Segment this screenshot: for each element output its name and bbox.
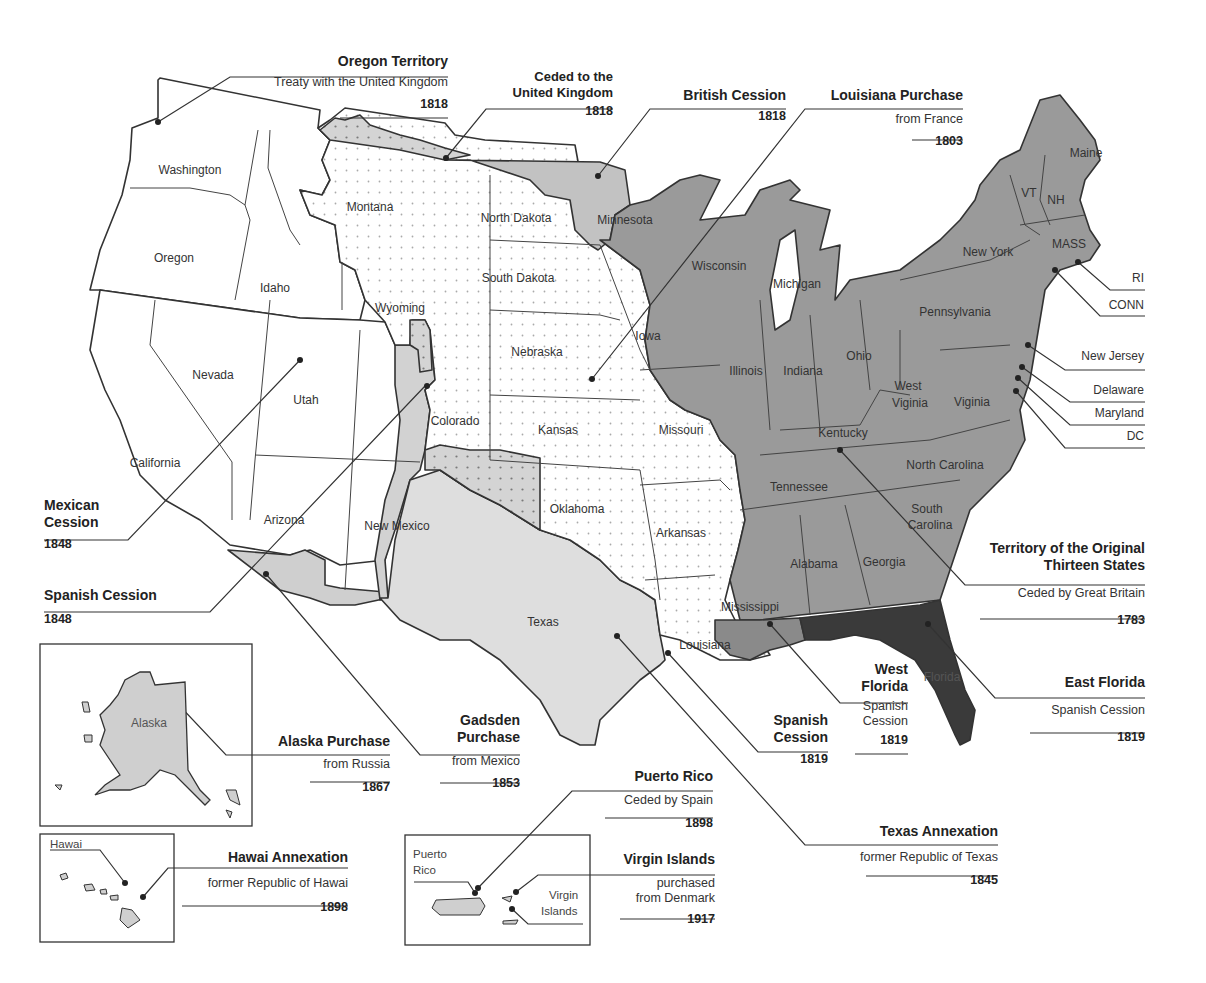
callout-subtitle: from France <box>831 112 963 127</box>
state-label-ohio: Ohio <box>846 349 871 363</box>
state-label-louisiana: Louisiana <box>679 638 730 652</box>
callout-spanish-cession-1848: Spanish Cession 1848 <box>44 587 157 627</box>
callout-title: Spanish Cession <box>44 587 157 604</box>
us-territorial-map <box>0 0 1206 983</box>
callout-year: 1867 <box>278 780 390 795</box>
ne-label-maryland: Maryland <box>1095 406 1144 420</box>
callout-year: 1898 <box>624 816 713 831</box>
state-label-idaho: Idaho <box>260 281 290 295</box>
callout-subtitle: Ceded by Great Britain <box>990 586 1145 601</box>
state-label-indiana: Indiana <box>783 364 822 378</box>
callout-subtitle: from Mexico <box>452 754 520 769</box>
callout-year: 1819 <box>774 752 828 767</box>
callout-british-cession: British Cession 1818 <box>683 87 786 124</box>
state-label-nevada: Nevada <box>192 368 233 382</box>
inset-label-puerto-rico-2: Rico <box>413 864 436 878</box>
inset-label-puerto-rico-1: Puerto <box>413 848 447 862</box>
callout-subtitle: Ceded by Spain <box>624 793 713 808</box>
state-label-florida: Florida <box>924 670 961 684</box>
inset-label-virgin-islands-1: Virgin <box>549 889 578 903</box>
callout-subtitle: Treaty with the United Kingdom <box>274 75 448 90</box>
state-label-new-mexico: New Mexico <box>364 519 429 533</box>
ne-label-conn: CONN <box>1109 298 1144 312</box>
callout-title-1: Ceded to the <box>513 69 613 85</box>
callout-year: 1783 <box>990 613 1145 628</box>
callout-title-1: West <box>861 661 908 678</box>
callout-year: 1819 <box>1051 730 1145 745</box>
callout-title-2: Cession <box>44 514 99 531</box>
state-label-illinois: Illinois <box>729 364 762 378</box>
state-label-pennsylvania: Pennsylvania <box>919 305 990 319</box>
callout-subtitle: former Republic of Texas <box>860 850 998 865</box>
callout-year: 1818 <box>513 104 613 119</box>
callout-title-1: Gadsden <box>452 712 520 729</box>
state-label-west-virginia-2: Viginia <box>892 396 928 410</box>
state-label-minnesota: Minnesota <box>597 213 652 227</box>
callout-original-thirteen: Territory of the Original Thirteen State… <box>990 540 1145 628</box>
callout-title-2: Purchase <box>452 729 520 746</box>
callout-louisiana-purchase: Louisiana Purchase from France 1803 <box>831 87 963 149</box>
callout-ceded-uk: Ceded to the United Kingdom 1818 <box>513 69 613 119</box>
callout-year: 1853 <box>452 776 520 791</box>
state-label-montana: Montana <box>347 200 394 214</box>
callout-hawaii-annexation: Hawai Annexation former Republic of Hawa… <box>208 849 348 915</box>
state-label-vermont: VT <box>1021 186 1036 200</box>
state-label-texas: Texas <box>527 615 558 629</box>
ne-label-ri: RI <box>1132 271 1144 285</box>
callout-title-2: Thirteen States <box>990 557 1145 574</box>
callout-subtitle-2: Cession <box>861 714 908 729</box>
state-label-maine: Maine <box>1070 146 1103 160</box>
callout-title: Louisiana Purchase <box>831 87 963 104</box>
callout-subtitle-2: from Denmark <box>623 891 715 906</box>
state-label-south-carolina-1: South <box>911 502 942 516</box>
state-label-colorado: Colorado <box>431 414 480 428</box>
ne-label-new-jersey: New Jersey <box>1081 349 1144 363</box>
state-label-nebraska: Nebraska <box>511 345 562 359</box>
state-label-washington: Washington <box>159 163 222 177</box>
callout-year: 1848 <box>44 612 157 627</box>
inset-label-hawaii: Hawai <box>50 838 82 852</box>
callout-subtitle: Spanish Cession <box>1051 703 1145 718</box>
state-label-missouri: Missouri <box>659 423 704 437</box>
callout-title: Virgin Islands <box>623 851 715 868</box>
callout-title: British Cession <box>683 87 786 104</box>
state-label-tennessee: Tennessee <box>770 480 828 494</box>
state-label-north-carolina: North Carolina <box>906 458 983 472</box>
state-label-mississippi: Mississippi <box>721 600 779 614</box>
callout-subtitle: from Russia <box>278 757 390 772</box>
callout-subtitle-1: purchased <box>623 876 715 891</box>
callout-year: 1898 <box>208 900 348 915</box>
ne-label-delaware: Delaware <box>1093 383 1144 397</box>
state-label-new-york: New York <box>963 245 1014 259</box>
ne-label-dc: DC <box>1127 429 1144 443</box>
callout-year: 1917 <box>623 912 715 927</box>
callout-title: Oregon Territory <box>274 53 448 70</box>
callout-mexican-cession: Mexican Cession 1848 <box>44 497 99 552</box>
state-label-oregon: Oregon <box>154 251 194 265</box>
callout-year: 1803 <box>831 134 963 149</box>
callout-puerto-rico: Puerto Rico Ceded by Spain 1898 <box>624 768 713 831</box>
state-label-wyoming: Wyoming <box>375 301 425 315</box>
state-label-michigan: Michigan <box>773 277 821 291</box>
state-label-utah: Utah <box>293 393 318 407</box>
callout-east-florida: East Florida Spanish Cession 1819 <box>1051 674 1145 745</box>
state-label-new-hampshire: NH <box>1047 193 1064 207</box>
state-label-wisconsin: Wisconsin <box>692 259 747 273</box>
callout-year: 1818 <box>274 97 448 112</box>
callout-alaska-purchase: Alaska Purchase from Russia 1867 <box>278 733 390 795</box>
state-label-massachusetts: MASS <box>1052 237 1086 251</box>
callout-year: 1819 <box>861 733 908 748</box>
state-label-virginia: Viginia <box>954 395 990 409</box>
inset-label-virgin-islands-2: Islands <box>541 905 577 919</box>
state-label-north-dakota: North Dakota <box>481 211 552 225</box>
shape-alaska <box>95 672 210 805</box>
callout-year: 1848 <box>44 537 99 552</box>
callout-year: 1818 <box>683 109 786 124</box>
callout-gadsden-purchase: Gadsden Purchase from Mexico 1853 <box>452 712 520 791</box>
callout-title: Texas Annexation <box>860 823 998 840</box>
leader-pr-label <box>414 882 475 893</box>
callout-texas-annexation: Texas Annexation former Republic of Texa… <box>860 823 998 888</box>
callout-subtitle: former Republic of Hawai <box>208 876 348 891</box>
state-label-kansas: Kansas <box>538 423 578 437</box>
callout-title: Puerto Rico <box>624 768 713 785</box>
